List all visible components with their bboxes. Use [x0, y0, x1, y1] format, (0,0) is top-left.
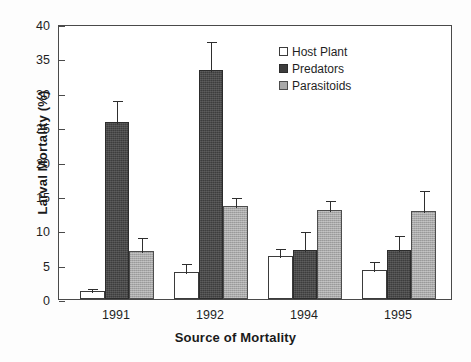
legend-swatch-host-plant-icon: [279, 47, 288, 56]
error-bar: [280, 249, 281, 258]
legend-label-host-plant: Host Plant: [292, 45, 347, 59]
bar-group-bars: [362, 26, 436, 299]
error-bar: [399, 236, 400, 252]
error-bar: [330, 201, 331, 212]
bar-group: [174, 26, 248, 299]
x-axis-tick-label: 1994: [290, 308, 318, 322]
y-axis-tick: [59, 301, 65, 302]
error-bar-cap: [395, 236, 405, 237]
chart-legend: Host Plant Predators Parasitoids: [279, 44, 351, 95]
bar-parasitoids-1992[interactable]: [223, 206, 248, 299]
y-axis-tick-label: 25: [36, 122, 50, 136]
y-axis-tick-label: 35: [36, 53, 50, 67]
x-axis-title: Source of Mortality: [0, 330, 471, 345]
bar-slot: [105, 26, 130, 299]
error-bar-cap: [326, 201, 336, 202]
y-axis-tick: [59, 232, 65, 233]
legend-item-predators: Predators: [279, 61, 351, 76]
bar-group-bars: [80, 26, 154, 299]
chart-figure: Larval Mortality (%) 0510152025303540 19…: [0, 0, 471, 362]
x-axis-tick-label: 1992: [196, 308, 224, 322]
bar-slot: [129, 26, 154, 299]
bar-host-plant-1992[interactable]: [174, 272, 199, 299]
y-axis-tick-label: 40: [36, 19, 50, 33]
error-bar: [374, 262, 375, 272]
y-axis-tick-label: 15: [36, 191, 50, 205]
bar-parasitoids-1991[interactable]: [129, 251, 154, 299]
error-bar-cap: [370, 262, 380, 263]
bar-slot: [223, 26, 248, 299]
bar-group-bars: [174, 26, 248, 299]
legend-item-host-plant: Host Plant: [279, 44, 351, 59]
bar-predators-1991[interactable]: [105, 122, 130, 299]
y-axis-tick-label: 30: [36, 88, 50, 102]
bar-slot: [80, 26, 105, 299]
bar-parasitoids-1995[interactable]: [411, 211, 436, 299]
y-axis-tick: [59, 26, 65, 27]
error-bar-cap: [301, 232, 311, 233]
bar-predators-1992[interactable]: [199, 70, 224, 299]
bar-slot: [199, 26, 224, 299]
bar-slot: [362, 26, 387, 299]
error-bar: [92, 289, 93, 293]
y-axis-tick: [59, 129, 65, 130]
x-axis-tick-label: 1995: [384, 308, 412, 322]
error-bar: [236, 198, 237, 208]
y-axis-tick: [59, 267, 65, 268]
bar-host-plant-1995[interactable]: [362, 270, 387, 299]
bar-group: [362, 26, 436, 299]
error-bar-cap: [138, 238, 148, 239]
y-axis-tick-label: 5: [43, 260, 50, 274]
error-bar: [211, 42, 212, 72]
legend-item-parasitoids: Parasitoids: [279, 78, 351, 93]
error-bar: [117, 101, 118, 124]
error-bar: [142, 238, 143, 252]
y-axis-tick-label: 10: [36, 225, 50, 239]
bar-parasitoids-1994[interactable]: [317, 210, 342, 299]
bar-group: [80, 26, 154, 299]
error-bar: [186, 264, 187, 274]
y-axis-tick: [59, 198, 65, 199]
error-bar-cap: [182, 264, 192, 265]
y-axis-tick: [59, 164, 65, 165]
error-bar-cap: [88, 289, 98, 290]
legend-label-predators: Predators: [292, 62, 344, 76]
y-axis-tick-label: 0: [43, 294, 50, 308]
legend-swatch-predators-icon: [279, 64, 288, 73]
bar-slot: [387, 26, 412, 299]
bar-slot: [411, 26, 436, 299]
legend-swatch-parasitoids-icon: [279, 81, 288, 90]
plot-area: 0510152025303540: [58, 25, 452, 300]
error-bar-cap: [276, 249, 286, 250]
bar-predators-1994[interactable]: [293, 250, 318, 299]
error-bar: [424, 191, 425, 213]
legend-label-parasitoids: Parasitoids: [292, 79, 351, 93]
y-axis-tick: [59, 60, 65, 61]
bar-predators-1995[interactable]: [387, 250, 412, 299]
y-axis-tick-label: 20: [36, 157, 50, 171]
bar-host-plant-1994[interactable]: [268, 256, 293, 299]
error-bar: [305, 232, 306, 252]
error-bar-cap: [420, 191, 430, 192]
error-bar-cap: [113, 101, 123, 102]
error-bar-cap: [207, 42, 217, 43]
x-axis-tick-label: 1991: [102, 308, 130, 322]
y-axis-tick: [59, 95, 65, 96]
error-bar-cap: [232, 198, 242, 199]
plot-inner: 0510152025303540: [59, 26, 451, 299]
bar-slot: [174, 26, 199, 299]
